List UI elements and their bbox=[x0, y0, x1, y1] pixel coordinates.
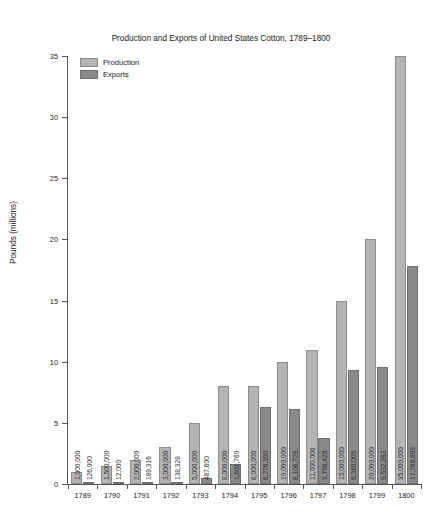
plot-area: 1,000,000126,0001,500,00012,0002,000,000… bbox=[68, 56, 421, 484]
x-axis-tick bbox=[362, 485, 363, 489]
y-axis-tick bbox=[62, 484, 67, 485]
x-axis-tick bbox=[127, 485, 128, 489]
bar-exports-1792[interactable]: 138,328 bbox=[171, 482, 182, 484]
bar-value-label: 3,788,429 bbox=[321, 451, 328, 480]
bar-value-label: 1,000,000 bbox=[73, 451, 80, 480]
bar-exports-1800[interactable]: 17,789,803 bbox=[407, 266, 418, 484]
legend-swatch-production-icon bbox=[80, 58, 98, 67]
bar-value-label: 5,000,000 bbox=[191, 451, 198, 480]
bar-exports-1795[interactable]: 6,276,300 bbox=[260, 407, 271, 484]
legend-item-production[interactable]: Production bbox=[80, 58, 139, 67]
y-axis-tick-label: 25 bbox=[4, 174, 58, 183]
y-axis-tick bbox=[62, 56, 67, 57]
bar-exports-1789[interactable]: 126,000 bbox=[83, 482, 94, 484]
bar-production-1791[interactable]: 2,000,000 bbox=[130, 460, 141, 484]
x-axis-tick bbox=[245, 485, 246, 489]
bar-value-label: 8,000,000 bbox=[250, 451, 257, 480]
x-axis-tick bbox=[156, 485, 157, 489]
chart-legend: Production Exports bbox=[80, 58, 139, 79]
bar-value-label: 11,000,000 bbox=[309, 447, 316, 480]
bar-production-1790[interactable]: 1,500,000 bbox=[101, 466, 112, 484]
bar-value-label: 9,360,005 bbox=[350, 451, 357, 480]
y-axis-tick-label: 30 bbox=[4, 113, 58, 122]
x-axis-tick bbox=[68, 485, 69, 489]
y-axis-tick-label: 15 bbox=[4, 296, 58, 305]
bar-value-label: 9,532,263 bbox=[379, 451, 386, 480]
y-axis-tick bbox=[62, 362, 67, 363]
bar-production-1800[interactable]: 35,000,000 bbox=[395, 56, 406, 484]
legend-label-production: Production bbox=[103, 58, 139, 67]
y-axis-tick-label: 20 bbox=[4, 235, 58, 244]
bar-exports-1793[interactable]: 487,600 bbox=[201, 478, 212, 484]
bar-value-label: 17,789,803 bbox=[409, 447, 416, 480]
x-axis-tick bbox=[392, 485, 393, 489]
bar-exports-1791[interactable]: 189,316 bbox=[142, 482, 153, 484]
chart-figure: Production and Exports of United States … bbox=[0, 0, 442, 532]
bar-production-1789[interactable]: 1,000,000 bbox=[71, 472, 82, 484]
y-axis-tick bbox=[62, 301, 67, 302]
y-axis-tick-label: 0 bbox=[4, 480, 58, 489]
bar-production-1799[interactable]: 20,000,000 bbox=[365, 239, 376, 484]
y-axis-tick-label: 10 bbox=[4, 357, 58, 366]
bar-value-label: 3,000,000 bbox=[161, 451, 168, 480]
bar-exports-1799[interactable]: 9,532,263 bbox=[377, 367, 388, 484]
bar-production-1797[interactable]: 11,000,000 bbox=[306, 350, 317, 485]
bar-value-label: 1,500,000 bbox=[103, 451, 110, 480]
y-axis-tick-label: 5 bbox=[4, 418, 58, 427]
bar-exports-1790[interactable]: 12,000 bbox=[113, 482, 124, 484]
bar-value-label: 2,000,000 bbox=[132, 451, 139, 480]
bar-value-label: 12,000 bbox=[115, 460, 122, 480]
bar-production-1792[interactable]: 3,000,000 bbox=[159, 447, 170, 484]
x-axis-tick bbox=[186, 485, 187, 489]
y-axis-tick bbox=[62, 239, 67, 240]
x-axis-tick bbox=[274, 485, 275, 489]
bar-exports-1797[interactable]: 3,788,429 bbox=[318, 438, 329, 484]
bar-exports-1796[interactable]: 6,106,729 bbox=[289, 409, 300, 484]
y-axis-tick bbox=[62, 178, 67, 179]
chart-title: Production and Exports of United States … bbox=[0, 34, 442, 43]
x-axis-tick bbox=[421, 485, 422, 489]
x-axis-tick bbox=[303, 485, 304, 489]
bar-value-label: 15,000,000 bbox=[338, 447, 345, 480]
bar-value-label: 1,601,760 bbox=[232, 451, 239, 480]
legend-item-exports[interactable]: Exports bbox=[80, 70, 139, 79]
bar-production-1794[interactable]: 8,000,000 bbox=[218, 386, 229, 484]
bar-production-1798[interactable]: 15,000,000 bbox=[336, 301, 347, 484]
y-axis-tick bbox=[62, 117, 67, 118]
x-axis-tick bbox=[215, 485, 216, 489]
bar-value-label: 10,000,000 bbox=[279, 447, 286, 480]
legend-swatch-exports-icon bbox=[80, 70, 98, 79]
bar-value-label: 20,000,000 bbox=[367, 447, 374, 480]
legend-label-exports: Exports bbox=[103, 70, 129, 79]
y-axis-tick-label: 35 bbox=[4, 52, 58, 61]
bar-value-label: 487,600 bbox=[203, 456, 210, 480]
bar-value-label: 6,276,300 bbox=[262, 451, 269, 480]
bar-value-label: 8,000,000 bbox=[220, 451, 227, 480]
bar-value-label: 138,328 bbox=[173, 456, 180, 480]
bar-value-label: 35,000,000 bbox=[397, 447, 404, 480]
x-axis-tick bbox=[97, 485, 98, 489]
bar-production-1793[interactable]: 5,000,000 bbox=[189, 423, 200, 484]
bar-value-label: 189,316 bbox=[144, 456, 151, 480]
x-axis-tick bbox=[333, 485, 334, 489]
bar-exports-1798[interactable]: 9,360,005 bbox=[348, 370, 359, 484]
y-axis-tick bbox=[62, 423, 67, 424]
bar-value-label: 126,000 bbox=[85, 456, 92, 480]
bar-production-1795[interactable]: 8,000,000 bbox=[248, 386, 259, 484]
bar-value-label: 6,106,729 bbox=[291, 451, 298, 480]
x-axis-tick-label: 1800 bbox=[386, 491, 426, 500]
bar-exports-1794[interactable]: 1,601,760 bbox=[230, 464, 241, 484]
bar-production-1796[interactable]: 10,000,000 bbox=[277, 362, 288, 484]
